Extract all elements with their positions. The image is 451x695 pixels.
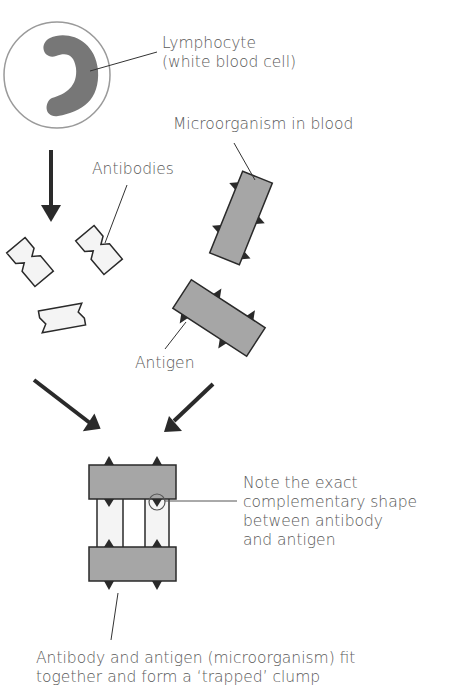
- antibodies-label: Antibodies: [92, 160, 174, 179]
- arrow-left-down-icon: [164, 384, 213, 432]
- antibody-2: [76, 225, 123, 274]
- note-label-line4: and antigen: [243, 531, 417, 550]
- caption-leader-line: [111, 593, 118, 640]
- arrow-down-icon: [41, 150, 61, 222]
- antibody-3: [38, 303, 85, 332]
- note-label-line3: between antibody: [243, 512, 417, 531]
- lymphocyte-label-line1: Lymphocyte: [162, 34, 296, 53]
- antigen-leader-line: [165, 322, 186, 349]
- note-label: Note the exact complementary shape betwe…: [243, 474, 417, 550]
- arrow-right-down-icon: [34, 380, 101, 431]
- lymphocyte-label: Lymphocyte (white blood cell): [162, 34, 296, 72]
- antibody-1: [7, 237, 54, 286]
- antigen-antibody-clump: [89, 456, 176, 590]
- microorganism-2: [168, 272, 270, 364]
- caption-label: Antibody and antigen (microorganism) fit…: [36, 649, 355, 687]
- antigen-label: Antigen: [135, 354, 194, 373]
- microorganism-label: Microorganism in blood: [173, 115, 353, 134]
- caption-label-line2: together and form a ‘trapped’ clump: [36, 668, 355, 687]
- lymphocyte-cell: [4, 22, 110, 128]
- caption-label-line1: Antibody and antigen (microorganism) fit: [36, 649, 355, 668]
- microorganism-1: [202, 168, 279, 268]
- immune-response-diagram: [0, 0, 451, 695]
- note-label-line1: Note the exact: [243, 474, 417, 493]
- note-label-line2: complementary shape: [243, 493, 417, 512]
- lymphocyte-label-line2: (white blood cell): [162, 53, 296, 72]
- antibodies-leader-line: [105, 185, 127, 243]
